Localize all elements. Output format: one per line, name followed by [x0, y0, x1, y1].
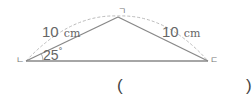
right-side-length-label: 10 cm [162, 24, 200, 40]
vertex-label-left: ㄴ [16, 56, 24, 65]
left-side-length-label: 10 cm [42, 24, 80, 40]
answer-close-paren: ) [246, 77, 252, 94]
vertex-label-top: ㄱ [118, 7, 126, 16]
vertex-label-right: ㄷ [210, 56, 218, 65]
angle-label: 25° [43, 47, 63, 63]
answer-blank[interactable] [128, 76, 242, 96]
answer-open-paren: ( [117, 77, 123, 94]
